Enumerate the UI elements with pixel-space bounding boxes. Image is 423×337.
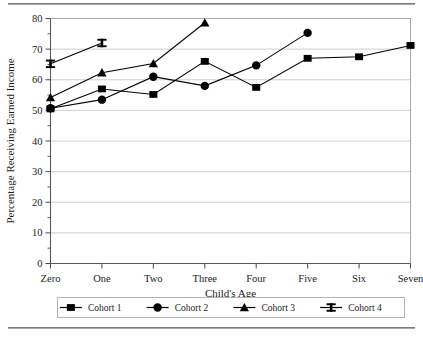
y-tick-label: 10 [32, 227, 43, 238]
y-tick-label: 70 [32, 44, 43, 55]
data-point-square [252, 84, 260, 91]
data-point-square [149, 91, 157, 98]
x-tick-label: Seven [398, 273, 423, 284]
legend-label: Cohort 3 [261, 303, 295, 313]
y-axis: 01020304050607080 [32, 13, 51, 269]
data-point-circle [98, 95, 106, 103]
data-point-square [355, 53, 363, 60]
y-tick-label: 20 [32, 197, 43, 208]
data-point-ibeam [97, 39, 106, 47]
data-point-circle [303, 29, 311, 37]
series-cohort-2 [46, 29, 312, 113]
series-group [46, 18, 415, 112]
ibeam-stem [330, 303, 333, 311]
legend-item-cohort-4[interactable]: Cohort 4 [320, 303, 382, 313]
ibeam-stem [101, 39, 104, 47]
series-cohort-4 [46, 39, 107, 68]
legend-label: Cohort 2 [175, 303, 209, 313]
data-point-square [201, 58, 209, 65]
data-point-square [304, 55, 312, 62]
figure-container: 01020304050607080Percentage Receiving Ea… [0, 0, 423, 337]
x-tick-label: Six [352, 273, 367, 284]
y-tick-label: 80 [32, 13, 43, 24]
line-chart: 01020304050607080Percentage Receiving Ea… [0, 0, 423, 337]
data-point-triangle [46, 93, 55, 101]
data-point-triangle [200, 18, 209, 26]
data-point-circle [149, 72, 157, 80]
legend-label: Cohort 4 [348, 303, 382, 313]
data-point-circle [46, 104, 54, 112]
data-point-square [407, 42, 415, 49]
data-point-circle [252, 61, 260, 69]
y-tick-label: 30 [32, 166, 43, 177]
legend-marker-square [67, 304, 75, 311]
y-tick-label: 50 [32, 105, 43, 116]
data-point-square [98, 86, 106, 93]
series-line [51, 43, 102, 64]
data-point-ibeam [46, 60, 55, 68]
x-tick-label: Four [246, 273, 266, 284]
chart-plot-area: 01020304050607080Percentage Receiving Ea… [0, 0, 423, 337]
legend: Cohort 1Cohort 2Cohort 3Cohort 4 [58, 298, 405, 318]
y-tick-label: 60 [32, 74, 43, 85]
x-axis-title: Child's Age [205, 287, 256, 299]
legend-marker-circle [153, 303, 161, 311]
x-tick-label: Three [193, 273, 218, 284]
series-line [51, 33, 308, 108]
x-tick-label: Two [144, 273, 163, 284]
gridlines [51, 19, 411, 233]
x-tick-label: Five [298, 273, 317, 284]
data-point-triangle [149, 59, 158, 67]
y-tick-label: 40 [32, 136, 43, 147]
series-line [51, 23, 205, 98]
x-axis: ZeroOneTwoThreeFourFiveSixSeven [41, 264, 423, 284]
series-cohort-3 [46, 18, 209, 101]
data-point-circle [201, 82, 209, 90]
x-tick-label: One [93, 273, 111, 284]
x-tick-label: Zero [41, 273, 61, 284]
y-axis-title: Percentage Receiving Earned Income [4, 58, 16, 223]
legend-label: Cohort 1 [88, 303, 122, 313]
ibeam-stem [49, 60, 52, 68]
y-tick-label: 0 [37, 258, 42, 269]
